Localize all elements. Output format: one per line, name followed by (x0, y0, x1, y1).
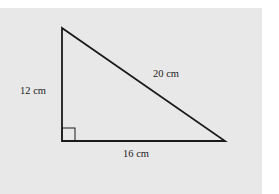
label-hypotenuse: 20 cm (153, 68, 179, 79)
right-angle-marker (62, 128, 75, 141)
label-vertical-side: 12 cm (20, 85, 46, 96)
label-base: 16 cm (123, 148, 149, 159)
triangle-outline (62, 28, 225, 141)
right-triangle (0, 0, 279, 194)
